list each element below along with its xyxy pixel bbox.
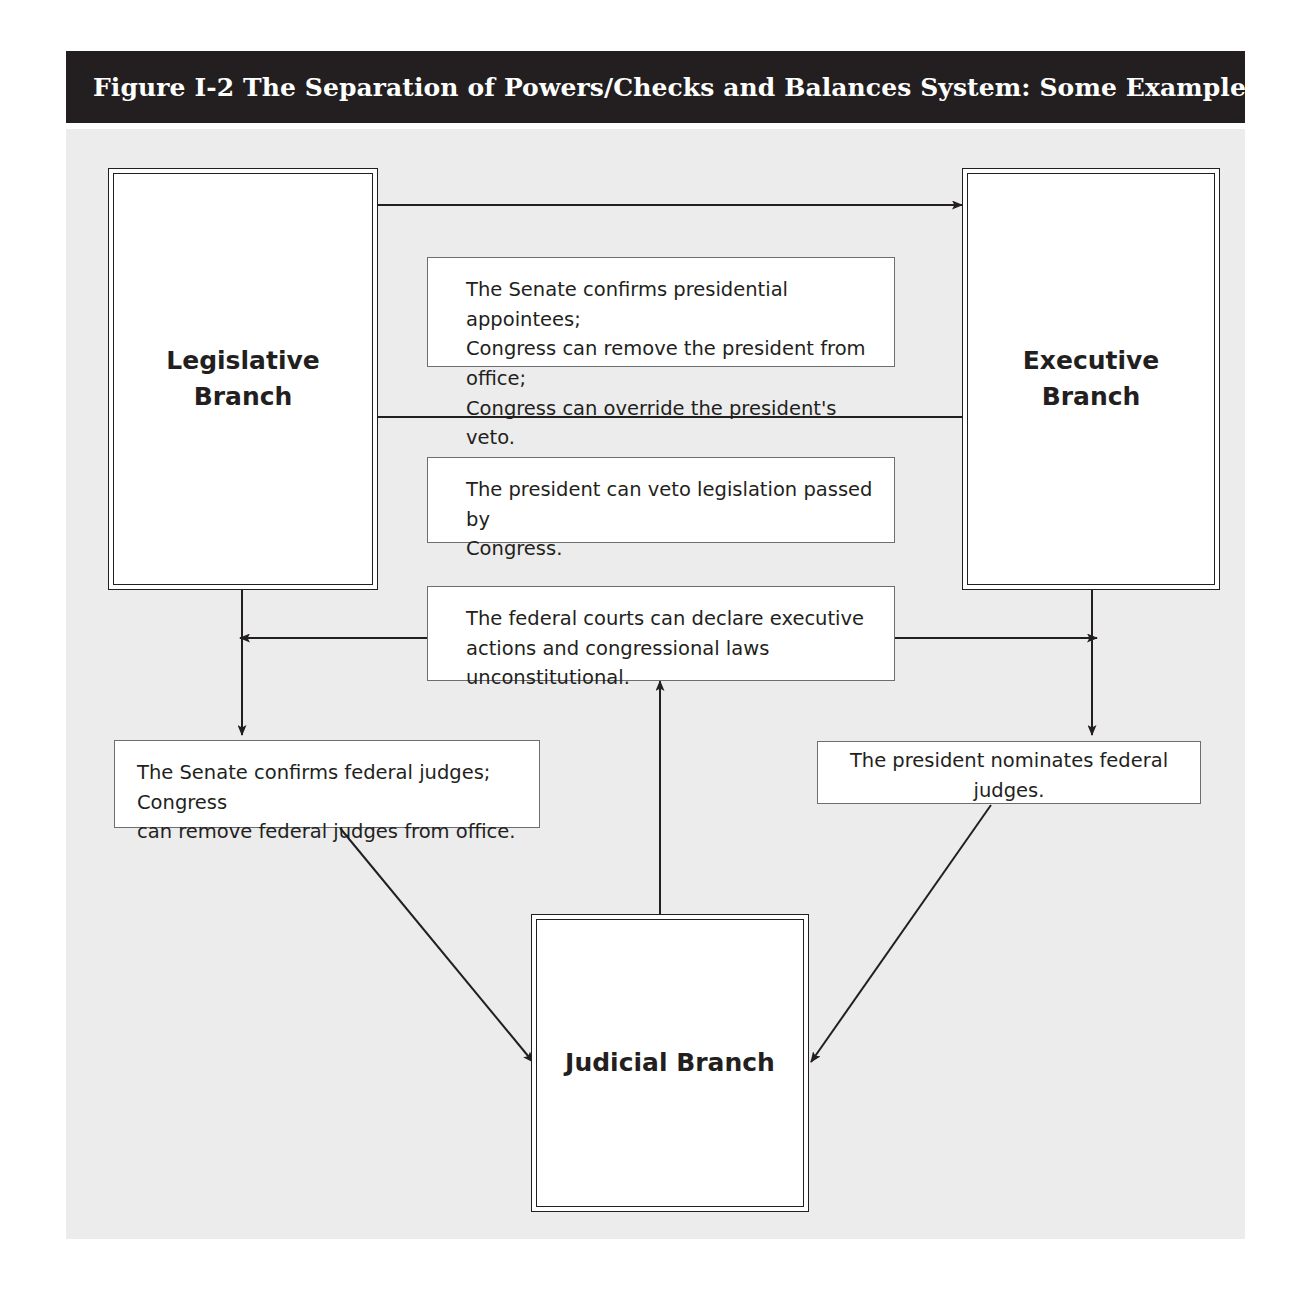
figure-root: Figure I-2 The Separation of Powers/Chec… <box>0 0 1311 1300</box>
executive-branch-inner: Executive Branch <box>967 173 1215 585</box>
note-federal-courts-declare-text: The federal courts can declare executive… <box>466 604 874 693</box>
note-president-veto[interactable]: The president can veto legislation passe… <box>427 457 895 543</box>
legislative-branch-inner: Legislative Branch <box>113 173 373 585</box>
executive-branch-label: Executive Branch <box>1023 343 1160 416</box>
note-president-nominates-judges[interactable]: The president nominates federal judges. <box>817 741 1201 804</box>
legislative-branch-label: Legislative Branch <box>166 343 319 416</box>
judicial-branch-box[interactable]: Judicial Branch <box>531 914 809 1212</box>
executive-branch-box[interactable]: Executive Branch <box>962 168 1220 590</box>
note-federal-courts-declare[interactable]: The federal courts can declare executive… <box>427 586 895 681</box>
figure-title-bar: Figure I-2 The Separation of Powers/Chec… <box>66 51 1245 123</box>
note-president-veto-text: The president can veto legislation passe… <box>466 475 874 564</box>
judicial-branch-inner: Judicial Branch <box>536 919 804 1207</box>
note-senate-confirms-judges[interactable]: The Senate confirms federal judges; Cong… <box>114 740 540 828</box>
note-senate-confirms-appointees[interactable]: The Senate confirms presidential appoint… <box>427 257 895 367</box>
note-president-nominates-judges-text: The president nominates federal judges. <box>818 746 1200 805</box>
note-senate-confirms-judges-text: The Senate confirms federal judges; Cong… <box>137 758 519 847</box>
legislative-branch-box[interactable]: Legislative Branch <box>108 168 378 590</box>
judicial-branch-label: Judicial Branch <box>565 1045 775 1081</box>
note-senate-confirms-appointees-text: The Senate confirms presidential appoint… <box>466 275 874 453</box>
figure-title: Figure I-2 The Separation of Powers/Chec… <box>66 73 1260 102</box>
